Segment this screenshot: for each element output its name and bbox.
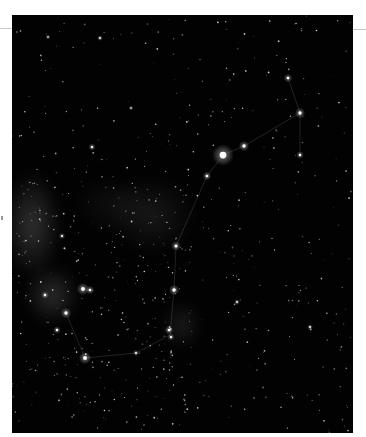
star <box>89 289 92 292</box>
edge-mark <box>1 216 3 220</box>
star <box>287 77 290 80</box>
star <box>242 144 245 147</box>
star <box>44 294 46 296</box>
star <box>91 146 93 148</box>
star <box>64 311 67 314</box>
antares-star <box>220 152 227 159</box>
star <box>168 329 171 332</box>
star <box>298 111 301 114</box>
milky-way-glow <box>12 170 202 350</box>
star <box>299 154 301 156</box>
star <box>170 336 172 338</box>
star <box>206 175 209 178</box>
divider-right <box>353 29 366 30</box>
star-field-photo <box>12 15 353 433</box>
star <box>99 37 101 39</box>
star <box>130 107 132 109</box>
star <box>309 326 311 328</box>
star <box>56 329 58 331</box>
star <box>172 288 175 291</box>
star <box>135 352 137 354</box>
sky-canvas <box>12 15 353 433</box>
star <box>175 245 178 248</box>
star <box>47 36 49 38</box>
star <box>83 356 87 360</box>
star <box>61 235 63 237</box>
page <box>0 0 366 437</box>
star <box>81 287 85 291</box>
star <box>236 301 238 303</box>
